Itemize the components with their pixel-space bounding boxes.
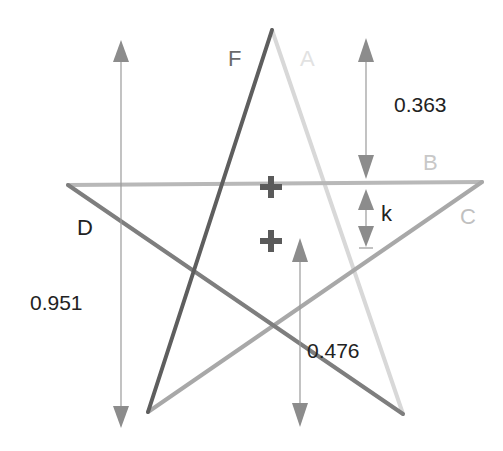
line-b — [148, 182, 482, 412]
measure-top-gap: 0.363 — [394, 94, 447, 115]
top-gap-arrow — [358, 38, 374, 179]
line-c — [68, 185, 403, 414]
label-d: F — [228, 48, 241, 70]
center-height-arrow — [292, 238, 308, 427]
measure-k: k — [381, 203, 392, 225]
line-d — [148, 30, 272, 412]
measure-height: 0.951 — [30, 292, 83, 313]
height-arrow — [113, 40, 129, 428]
measure-center-height: 0.476 — [307, 340, 360, 361]
center-upper-marker — [260, 176, 282, 198]
label-a: B — [423, 152, 438, 174]
pentagram-diagram — [0, 0, 503, 451]
label-c: D — [77, 217, 93, 239]
k-gap-arrow — [358, 189, 374, 248]
center-lower-marker — [260, 230, 282, 252]
label-b: C — [460, 206, 476, 228]
label-f: A — [300, 48, 315, 70]
